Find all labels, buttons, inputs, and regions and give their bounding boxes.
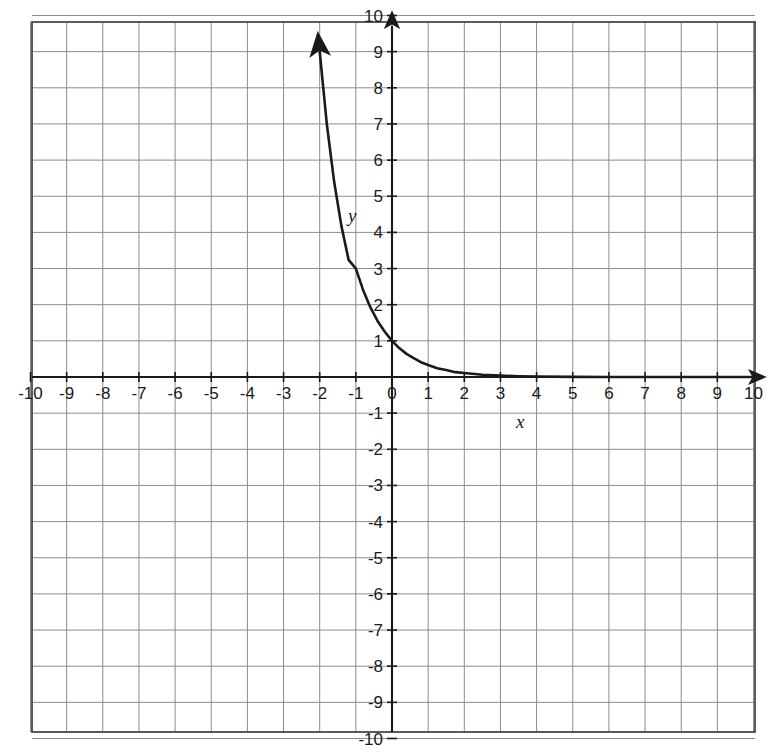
x-tick-label: -3: [276, 384, 291, 403]
y-tick-label: -5: [368, 549, 383, 568]
x-tick-label: 9: [713, 384, 722, 403]
axis-name-y: y: [346, 205, 357, 226]
x-tick-label: -8: [95, 384, 110, 403]
x-tick-label: 7: [640, 384, 649, 403]
y-tick-label: -7: [368, 621, 383, 640]
x-tick-label: -10: [18, 384, 43, 403]
x-tick-label: -9: [59, 384, 74, 403]
y-tick-label: 5: [374, 187, 383, 206]
x-tick-label: -7: [131, 384, 146, 403]
x-tick-label: -2: [312, 384, 327, 403]
y-tick-label: -2: [368, 440, 383, 459]
x-tick-label: 3: [496, 384, 505, 403]
x-tick-label: -6: [168, 384, 183, 403]
x-tick-label: 0: [387, 384, 396, 403]
y-tick-label: 8: [374, 79, 383, 98]
y-tick-label: -8: [368, 657, 383, 676]
axis-name-x: x: [515, 411, 525, 432]
coordinate-plane-graph: -10-9-8-7-6-5-4-3-2-1012345678910 109876…: [0, 0, 773, 754]
x-tick-label: -4: [240, 384, 255, 403]
y-tick-label: 3: [374, 260, 383, 279]
x-tick-label: -1: [348, 384, 363, 403]
x-tick-label: 2: [460, 384, 469, 403]
y-tick-label: 1: [374, 332, 383, 351]
y-tick-label: 6: [374, 151, 383, 170]
y-tick-label: 9: [374, 43, 383, 62]
y-tick-label: 10: [364, 7, 383, 26]
y-tick-label: -4: [368, 513, 383, 532]
x-tick-label: 10: [744, 384, 763, 403]
x-tick-label: 4: [532, 384, 541, 403]
x-tick-label: 8: [676, 384, 685, 403]
y-tick-label: 4: [374, 223, 383, 242]
y-tick-label: -9: [368, 693, 383, 712]
y-tick-label: -1: [368, 404, 383, 423]
x-tick-label: -5: [204, 384, 219, 403]
y-tick-label: 7: [374, 115, 383, 134]
x-tick-label: 6: [604, 384, 613, 403]
y-tick-label: -6: [368, 585, 383, 604]
y-tick-label: -3: [368, 476, 383, 495]
y-tick-label: -10: [358, 730, 383, 749]
graph-canvas: -10-9-8-7-6-5-4-3-2-1012345678910 109876…: [0, 0, 773, 754]
x-tick-label: 1: [423, 384, 432, 403]
y-tick-label: 2: [374, 296, 383, 315]
x-tick-label: 5: [568, 384, 577, 403]
